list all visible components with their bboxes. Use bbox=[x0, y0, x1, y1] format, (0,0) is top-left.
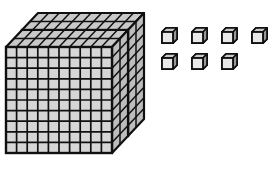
unit-cube-5 bbox=[162, 54, 177, 69]
blocks-figure bbox=[0, 0, 270, 187]
unit-cube-2-front bbox=[192, 32, 203, 43]
unit-cube-2 bbox=[192, 28, 207, 43]
hundred-flat-front bbox=[6, 30, 128, 153]
base-ten-blocks-svg bbox=[0, 0, 270, 187]
unit-cube-5-front bbox=[162, 58, 173, 69]
illustration-canvas: Base ten blocks model Two hundred-flats … bbox=[0, 0, 270, 187]
unit-cube-6 bbox=[192, 54, 207, 69]
unit-cube-1 bbox=[162, 28, 177, 43]
unit-cube-4 bbox=[252, 28, 267, 43]
unit-cube-7 bbox=[222, 54, 237, 69]
unit-cube-1-front bbox=[162, 32, 173, 43]
unit-cube-6-front bbox=[192, 58, 203, 69]
cube-row-bottom bbox=[162, 54, 237, 69]
unit-cube-7-front bbox=[222, 58, 233, 69]
unit-cube-3 bbox=[222, 28, 237, 43]
unit-cube-3-front bbox=[222, 32, 233, 43]
unit-cube-4-front bbox=[252, 32, 263, 43]
